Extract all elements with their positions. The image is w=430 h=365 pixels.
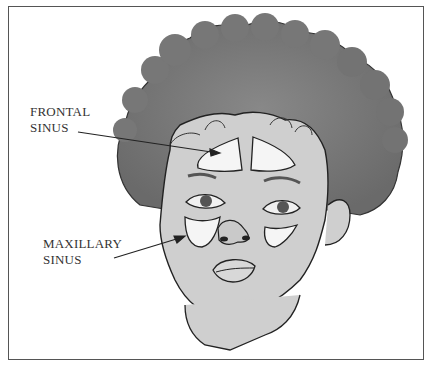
face: [160, 112, 328, 318]
face-illustration: [0, 0, 430, 365]
maxillary-label-line1: MAXILLARY: [43, 236, 122, 252]
ear: [325, 200, 350, 245]
frontal-label-line2: SINUS: [30, 120, 90, 136]
frontal-sinus-label: FRONTAL SINUS: [30, 104, 90, 136]
maxillary-sinus-label: MAXILLARY SINUS: [43, 236, 122, 268]
frontal-label-line1: FRONTAL: [30, 104, 90, 120]
maxillary-label-line2: SINUS: [43, 252, 122, 268]
